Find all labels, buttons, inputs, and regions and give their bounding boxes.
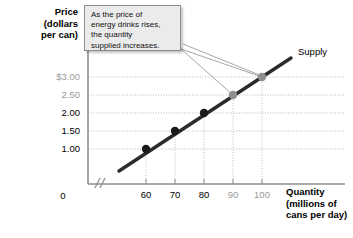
y-tick-label-2-50: 2.50: [20, 90, 80, 100]
y-tick-label-3-00: $3.00: [20, 72, 80, 82]
supply-curve-label: Supply: [298, 46, 327, 57]
y-axis-title: Price (dollars per can): [6, 6, 78, 41]
data-point-90: [229, 91, 237, 99]
gridlines-horizontal: [88, 77, 345, 149]
origin-label: 0: [56, 190, 70, 201]
annotation-callout-text: As the price of energy drinks rises, the…: [91, 10, 175, 51]
data-point-60: [142, 145, 150, 153]
x-tick-label-100: 100: [249, 190, 275, 200]
annotation-callout: As the price of energy drinks rises, the…: [84, 5, 181, 51]
data-point-70: [171, 127, 179, 135]
x-tick-label-80: 80: [191, 190, 217, 200]
axis-break-mark: [95, 178, 105, 188]
y-tick-label-2-00: 2.00: [20, 108, 80, 118]
x-tick-label-90: 90: [220, 190, 246, 200]
callout-leader-lines: [181, 44, 262, 95]
chart-canvas: Price (dollars per can) Quantity (millio…: [0, 0, 353, 238]
x-axis-title: Quantity (millions of cans per day): [286, 186, 350, 221]
y-tick-label-1-50: 1.50: [20, 126, 80, 136]
x-tick-label-60: 60: [133, 190, 159, 200]
x-tick-label-70: 70: [162, 190, 188, 200]
y-tick-label-1-00: 1.00: [20, 144, 80, 154]
data-point-100: [258, 73, 266, 81]
data-point-80: [200, 109, 208, 117]
